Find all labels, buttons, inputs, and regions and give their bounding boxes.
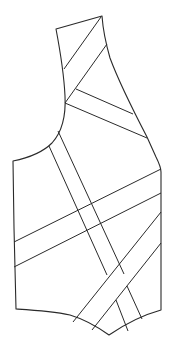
seam-lines <box>14 17 161 331</box>
seam-shoulder-band-bottom <box>65 103 147 138</box>
vest-outline <box>13 16 161 335</box>
seam-vertical-band-right <box>58 131 124 274</box>
seam-lower-vertical-right <box>127 286 142 319</box>
vest-pattern-drawing <box>0 0 176 355</box>
seam-upper-band-bottom <box>65 44 107 103</box>
seam-waist-band-bottom <box>14 193 161 267</box>
seam-hem-band-right <box>92 243 161 330</box>
